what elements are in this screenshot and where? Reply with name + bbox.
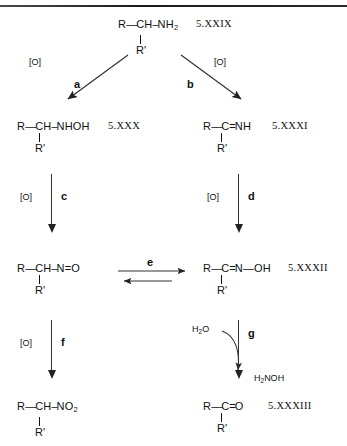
amine-center-atom: CH: [136, 18, 152, 30]
reagent-water: H2O: [192, 324, 209, 335]
arrow-step-d-shaft: [238, 174, 239, 226]
compound-carbonyl: R—C=O R': [203, 400, 244, 438]
compound-imine: R—C=NH R': [203, 120, 251, 158]
nitro-right-subscript: 2: [73, 405, 77, 414]
nitroso-center-atom: CH: [35, 262, 51, 274]
nitro-center-atom: CH: [35, 400, 51, 412]
nitroso-branch-group: R': [35, 284, 45, 296]
carbonyl-bond-1: —: [211, 400, 221, 412]
reagent-step-c: [O]: [20, 192, 32, 202]
hydroxylamine-branch-group: R': [35, 142, 45, 154]
carbonyl-branch: R': [203, 412, 244, 438]
reaction-scheme-canvas: R—CH–NH2 R' 5.XXIX [O] a [O] b: [0, 0, 347, 446]
hydroxylamine-branch: R': [17, 132, 90, 158]
oxime-branch: R': [203, 274, 271, 300]
hydroxylamine-center-atom: CH: [35, 120, 51, 132]
compound-tag-imine: 5.XXXI: [272, 120, 308, 131]
nitroso-branch: R': [17, 274, 80, 300]
nitro-branch: R': [17, 416, 78, 442]
nitro-right-group: NO: [57, 400, 74, 412]
carbonyl-branch-group: R': [217, 422, 227, 434]
imine-bond-1: —: [211, 120, 221, 132]
nitroso-left-group: R: [17, 262, 25, 274]
amine-branch-bond: [140, 35, 141, 44]
oxime-left-group: R: [203, 262, 211, 274]
step-label-b: b: [187, 78, 194, 90]
arrow-step-f-head: [48, 370, 56, 379]
compound-tag-hydroxylamine: 5.XXX: [108, 120, 140, 131]
compound-amine: R—CH–NH2 R': [118, 18, 178, 60]
imine-backbone: R—C=NH: [203, 120, 251, 132]
step-label-c: c: [61, 190, 67, 202]
imine-left-group: R: [203, 120, 211, 132]
compound-nitro: R—CH–NO2 R': [17, 400, 78, 442]
step-label-a: a: [74, 78, 80, 90]
carbonyl-branch-bond: [221, 413, 222, 422]
hydroxylamine-branch-bond: [39, 133, 40, 142]
amine-bond-1: —: [126, 18, 136, 30]
hydroxylamine-left-group: R: [17, 120, 25, 132]
compound-tag-carbonyl: 5.XXXIII: [268, 400, 312, 411]
nitroso-branch-bond: [39, 275, 40, 284]
arrow-step-b: [181, 55, 241, 99]
amine-backbone: R—CH–NH2: [118, 18, 178, 34]
oxime-backbone: R—C=N—OH: [203, 262, 271, 274]
carbonyl-backbone: R—C=O: [203, 400, 244, 412]
reagent-step-d: [O]: [207, 192, 219, 202]
amine-left-group: R: [118, 18, 126, 30]
nitro-branch-bond: [39, 417, 40, 426]
imine-branch-group: R': [217, 142, 227, 154]
reagent-step-b: [O]: [214, 57, 226, 67]
nitroso-right-group: N=O: [57, 262, 81, 274]
step-label-d: d: [248, 190, 255, 202]
hydroxylamine-backbone: R—CH–NHOH: [17, 120, 90, 132]
water-formula-tail: O: [202, 324, 209, 334]
amine-branch-group: R': [136, 44, 146, 56]
hydroxylamine-formula-tail: NOH: [264, 373, 284, 383]
hydroxylamine-right-group: NHOH: [57, 120, 90, 132]
amine-right-subscript: 2: [174, 23, 178, 32]
arrow-step-a: [68, 55, 128, 99]
compound-oxime: R—C=N—OH R': [203, 262, 271, 300]
arrow-step-c-shaft: [51, 174, 52, 226]
imine-branch-bond: [221, 133, 222, 142]
step-label-f: f: [61, 336, 65, 348]
product-hydroxylamine: H2NOH: [254, 373, 284, 384]
arrow-step-c-head: [48, 224, 56, 233]
arrow-step-g-shaft: [238, 320, 239, 372]
oxime-bond-1: —: [211, 262, 221, 274]
imine-branch: R': [203, 132, 251, 158]
compound-tag-amine: 5.XXIX: [196, 18, 232, 29]
oxime-right-group: N—OH: [235, 262, 271, 274]
arrow-step-g-head: [235, 370, 243, 379]
arrow-step-g-curve: [222, 331, 238, 370]
top-divider-rule: [0, 5, 347, 7]
reagent-step-f: [O]: [20, 338, 32, 348]
nitro-backbone: R—CH–NO2: [17, 400, 78, 416]
compound-hydroxylamine: R—CH–NHOH R': [17, 120, 90, 158]
reagent-step-a: [O]: [29, 57, 41, 67]
step-label-g: g: [248, 327, 255, 339]
nitro-left-group: R: [17, 400, 25, 412]
step-label-e: e: [147, 256, 153, 268]
oxime-branch-bond: [221, 275, 222, 284]
amine-right-group: NH: [158, 18, 174, 30]
nitro-bond-1: —: [25, 400, 35, 412]
arrow-step-d-head: [235, 224, 243, 233]
carbonyl-left-group: R: [203, 400, 211, 412]
nitroso-backbone: R—CH–N=O: [17, 262, 80, 274]
arrow-step-f-shaft: [51, 320, 52, 372]
nitroso-bond-1: —: [25, 262, 35, 274]
hydroxylamine-bond-1: —: [25, 120, 35, 132]
carbonyl-right-group: O: [235, 400, 244, 412]
nitro-branch-group: R': [35, 426, 45, 438]
compound-nitroso: R—CH–N=O R': [17, 262, 80, 300]
compound-tag-oxime: 5.XXXII: [288, 262, 328, 273]
oxime-branch-group: R': [217, 284, 227, 296]
imine-right-group: NH: [235, 120, 251, 132]
amine-branch: R': [118, 34, 178, 60]
